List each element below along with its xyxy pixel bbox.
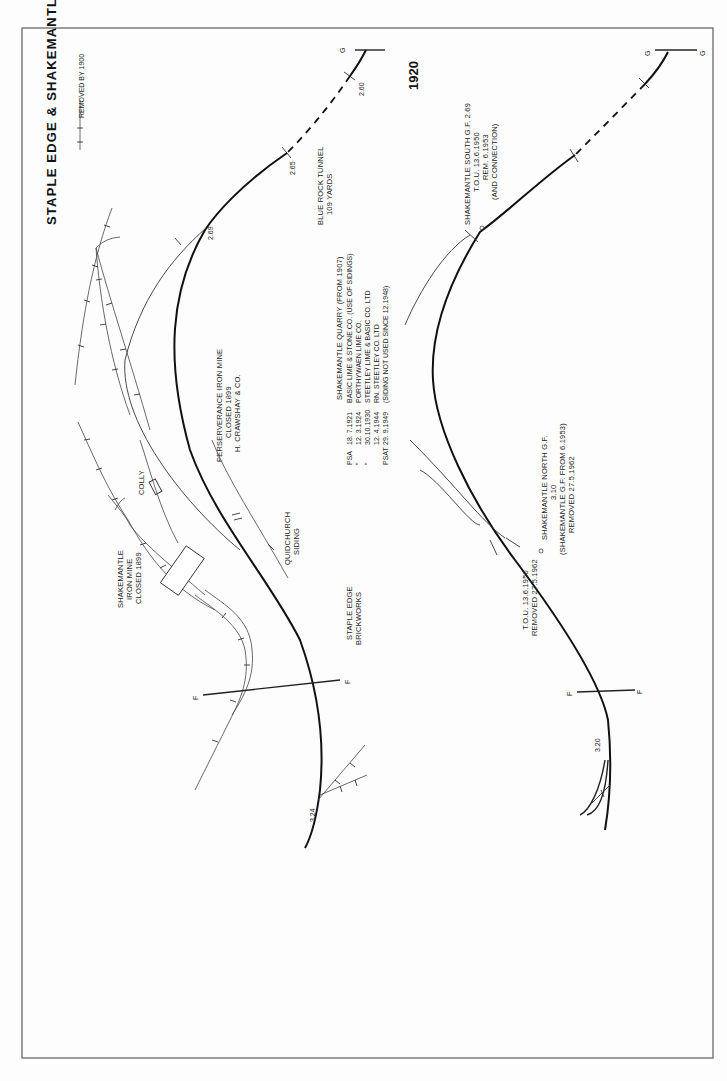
quarry-row-text: BASIC LIME & STONE CO. (USE OF SIDINGS) — [346, 253, 354, 403]
removed-siding-upper-a — [75, 208, 112, 385]
colly-label: COLLY — [137, 470, 146, 495]
diagram-1880: G 2.60 2.65 BLUE ROCK TUNNEL 109 YARDS 2… — [75, 48, 390, 848]
south-gf-siding — [405, 235, 470, 325]
perserverance-label-line3: H. CRAWSHAY & CO. — [233, 374, 242, 452]
main-line-1880 — [174, 153, 321, 848]
shakemantle-mine-building — [160, 546, 204, 595]
south-gf-label-line2: T.O.U. 13.6.1950 — [472, 132, 481, 192]
north-gf-label-line3: (SHAKEMANTLE G.F. FROM 6.1953) — [558, 423, 567, 555]
quarry-row-date: 18. 7.1921 — [346, 412, 353, 445]
tunnel-label-line2: 109 YARDS — [325, 173, 334, 215]
quarry-row-date: 29. 9.1949 — [382, 412, 389, 445]
north-gf-label-line1: SHAKEMANTLE NORTH G.F. — [540, 435, 549, 540]
perserverance-label-line2: CLOSED 1899 — [224, 386, 233, 438]
diagram-page: STAPLE EDGE & SHAKEMANTLE (1880) REMOVED… — [0, 0, 727, 1081]
milepost-3-24: 3.24 — [309, 808, 316, 822]
brickworks-siding-b — [320, 775, 367, 795]
north-tou-label-line2: REMOVED 27.5.1962 — [530, 559, 539, 636]
quarry-row-text: RN. STEETLEY CO. LTD — [373, 324, 380, 403]
railway-track-diagram: STAPLE EDGE & SHAKEMANTLE (1880) REMOVED… — [0, 0, 727, 1081]
f-label-right: F — [636, 690, 643, 694]
quarry-row-code: PSAT — [382, 447, 389, 465]
north-gf-label-line2: 3.10 — [549, 485, 558, 500]
perserverance-label-line1: PERSERVERANCE IRON MINE — [215, 349, 224, 462]
south-gf-label-line4: (AND CONNECTION) — [490, 123, 499, 200]
g-label: G — [339, 48, 346, 53]
ground-frame-north-icon — [539, 549, 543, 553]
milepost-2-65: 2.65 — [289, 161, 296, 175]
g-label-left: G — [644, 51, 651, 56]
shakemantle-mine-label-line3: CLOSED 1899 — [134, 552, 143, 604]
quarry-row-code: " — [364, 462, 371, 465]
quarry-row-text: (SIDING NOT USED SINCE 12.1948) — [382, 286, 390, 403]
page-frame — [22, 28, 713, 1058]
legend: REMOVED BY 1900 — [77, 54, 85, 150]
f-label-left: F — [192, 696, 199, 700]
north-tou-label-line1: T.O.U. 13.6.1950 — [521, 570, 530, 630]
main-line-north-1880 — [350, 50, 366, 76]
quarry-row-date: 30.10.1930 — [364, 410, 371, 445]
quarry-row-text: STEETLEY LIME & BASIC CO. LTD — [364, 290, 371, 403]
tunnel-label-line1: BLUE ROCK TUNNEL — [316, 147, 325, 226]
legend-removed-label: REMOVED BY 1900 — [78, 54, 85, 118]
north-gf-label-line4: REMOVED 27.5.1962 — [567, 456, 576, 533]
f-line-1920 — [577, 690, 635, 692]
diagram-1920: 1920 G G SHAKEMANTLE SOUTH G.F. 2.69 T.O… — [405, 50, 706, 830]
quarry-row-date: 12. 3.1924 — [355, 412, 362, 445]
quarry-row-text: PORTHYWAEN LIME CO. — [355, 320, 362, 403]
shakemantle-mine-label-line1: SHAKEMANTLE — [116, 550, 125, 608]
south-gf-label-line3: REM. 6.1953 — [481, 134, 490, 180]
quarry-row-date: 12. 4.1944 — [373, 412, 380, 445]
quarry-heading: SHAKEMANTLE QUARRY (FROM 1907) — [335, 256, 344, 400]
milepost-2-60: 2.60 — [358, 82, 365, 96]
quidchurch-label-line1: QUIDCHURCH — [283, 512, 292, 565]
brickworks-label-line2: BRICKWORKS — [354, 592, 363, 645]
mine-siding-outer — [78, 422, 215, 610]
quidchurch-label-line2: SIDING — [292, 528, 301, 555]
page-title: STAPLE EDGE & SHAKEMANTLE (1880) — [44, 0, 59, 225]
shakemantle-mine-label-line2: IRON MINE — [125, 559, 134, 600]
f-label-right: F — [344, 680, 351, 684]
milepost-2-69: 2.69 — [207, 226, 214, 240]
brickworks-label-line1: STAPLE EDGE — [345, 586, 354, 640]
blue-rock-tunnel-1880 — [287, 76, 350, 153]
blue-rock-tunnel-1920 — [575, 84, 645, 155]
colly-building — [149, 479, 162, 495]
removed-siding-upper-c — [96, 248, 150, 430]
south-gf-label-line1: SHAKEMANTLE SOUTH G.F. 2.69 — [463, 103, 472, 225]
f-label-left: F — [566, 692, 573, 696]
g-label-right: G — [699, 51, 706, 56]
quarry-row-code: " — [355, 462, 362, 465]
year-label-1920: 1920 — [406, 61, 421, 90]
f-line-1880 — [203, 680, 340, 695]
removed-siding-upper-b — [96, 248, 130, 415]
milepost-3-20: 3.20 — [594, 738, 601, 752]
quarry-row-code: PSA — [346, 451, 353, 465]
quarry-history-table: SHAKEMANTLE QUARRY (FROM 1907) PSA 18. 7… — [335, 253, 390, 465]
